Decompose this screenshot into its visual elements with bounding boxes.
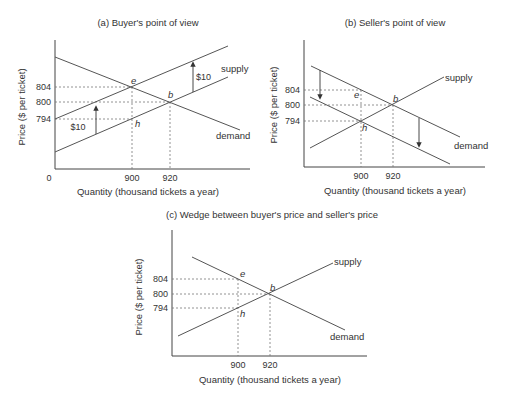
panel-a-arrow1-label: $10 (70, 122, 85, 132)
panel-a-supply-label: supply (221, 63, 249, 74)
panel-b-demand-label: demand (454, 140, 488, 151)
panel-b-supply (310, 77, 444, 148)
panel-b-xtick-900: 900 (353, 171, 368, 181)
panel-a-arrow2-label: $10 (196, 72, 211, 82)
panel-b-ytick-800: 800 (285, 100, 300, 110)
panel-a-ytick-804: 804 (36, 82, 51, 92)
panel-b-xtick-920: 920 (385, 171, 400, 181)
panel-a-xtick-920: 920 (162, 173, 177, 183)
panel-a-point-h: h (135, 118, 140, 129)
panel-c-point-b: b (270, 282, 275, 293)
panel-b-xlabel: Quantity (thousand tickets a year) (324, 185, 466, 196)
panel-a-title: (a) Buyer's point of view (97, 17, 198, 28)
panel-b-ylabel: Price ($ per ticket) (268, 66, 279, 143)
panel-b-point-b: b (393, 93, 398, 104)
panel-b: (b) Seller's point of view Price ($ per … (268, 17, 488, 196)
panel-c-ytick-800: 800 (153, 289, 168, 299)
panel-a-point-b: b (168, 89, 173, 100)
panel-a-demand (55, 57, 240, 130)
panel-a-xtick-900: 900 (124, 173, 139, 183)
panel-b-point-e: e (354, 89, 359, 100)
panel-c-supply (178, 263, 333, 336)
panel-a-ytick-794: 794 (36, 114, 51, 124)
panel-a-point-e: e (131, 75, 136, 86)
panel-a-demand-label: demand (216, 130, 250, 141)
panel-a-ylabel: Price ($ per ticket) (16, 68, 27, 145)
panel-b-ytick-804: 804 (285, 85, 300, 95)
panel-c-ylabel: Price ($ per ticket) (133, 258, 144, 335)
panel-c-xtick-900: 900 (230, 360, 245, 370)
panel-b-ytick-794: 794 (285, 116, 300, 126)
panel-c: (c) Wedge between buyer's price and sell… (133, 209, 378, 385)
panel-a-supply-shifted (55, 46, 228, 119)
panel-b-demand-shifted (310, 97, 450, 164)
panel-c-xlabel: Quantity (thousand tickets a year) (199, 374, 341, 385)
panel-c-demand-label: demand (330, 331, 364, 342)
figure: (a) Buyer's point of view Price ($ per t… (0, 0, 505, 397)
panel-c-title: (c) Wedge between buyer's price and sell… (166, 209, 378, 220)
panel-c-supply-label: supply (334, 256, 362, 267)
panel-a: (a) Buyer's point of view Price ($ per t… (16, 17, 250, 197)
panel-c-point-e: e (240, 268, 245, 279)
panel-c-xtick-920: 920 (262, 360, 277, 370)
panel-c-ytick-794: 794 (153, 303, 168, 313)
panel-a-axes (55, 40, 250, 169)
panel-a-xlabel: Quantity (thousand tickets a year) (77, 186, 219, 197)
panel-a-origin: 0 (46, 173, 51, 183)
panel-c-ytick-804: 804 (153, 274, 168, 284)
panel-c-point-h: h (240, 308, 245, 319)
panel-b-supply-label: supply (445, 72, 473, 83)
panel-b-demand (311, 66, 460, 137)
panel-b-title: (b) Seller's point of view (345, 17, 446, 28)
panel-a-ytick-800: 800 (36, 97, 51, 107)
panel-b-point-h: h (362, 122, 367, 133)
